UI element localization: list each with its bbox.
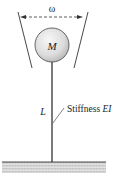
mass-label: M [46,40,57,52]
length-label: L [39,106,46,117]
omega-label: ω [49,3,56,14]
stiffness-symbol: EI [101,104,112,114]
stiffness-label: Stiffness EI [67,104,112,114]
stiffness-leader-line [53,108,64,123]
left-swing-boundary [18,12,32,68]
pendulum-diagram: ω M L Stiffness EI [0,0,126,179]
stiffness-prefix: Stiffness [67,104,102,114]
ground-hatch [2,162,106,173]
oscillation-arrow [20,15,83,19]
right-swing-boundary [74,12,88,68]
